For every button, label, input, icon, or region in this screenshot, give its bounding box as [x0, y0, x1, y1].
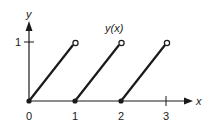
closed-dot-2: [118, 98, 123, 103]
curve-label: y(x): [104, 22, 124, 34]
open-circle-2: [119, 40, 124, 45]
segment-2: [121, 45, 165, 101]
closed-dot-0: [26, 98, 31, 103]
y-axis-label: y: [25, 8, 33, 20]
open-circle-1: [73, 40, 78, 45]
chart-canvas: y x 1 0 1 2 3 y(x): [0, 0, 210, 126]
x-axis-label: x: [195, 95, 202, 107]
x-tick-label-1: 1: [72, 110, 78, 122]
y-tick-label-1: 1: [15, 36, 21, 48]
closed-dot-1: [72, 98, 77, 103]
open-circle-3: [164, 40, 169, 45]
x-tick-label-0: 0: [26, 110, 32, 122]
segment-1: [75, 45, 119, 101]
x-tick-label-3: 3: [163, 110, 169, 122]
segment-0: [29, 45, 73, 101]
x-tick-label-2: 2: [118, 110, 124, 122]
x-axis-arrow-icon: [184, 98, 193, 105]
y-axis-arrow-icon: [26, 21, 33, 31]
